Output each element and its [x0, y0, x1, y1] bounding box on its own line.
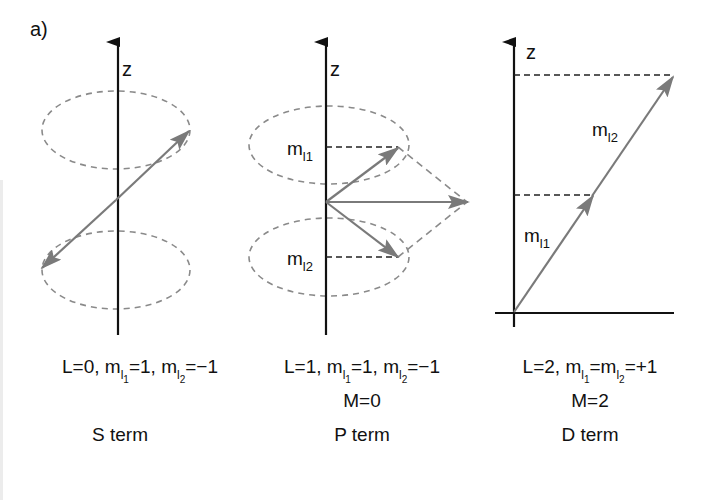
p-vector-ml2	[326, 202, 398, 257]
p-term-panel: z ml1 ml2	[249, 42, 468, 335]
p-total-m: M=0	[302, 390, 422, 412]
d-vector-ml1	[514, 196, 593, 312]
s-term-name: S term	[60, 424, 180, 446]
s-top-precession-ellipse	[42, 91, 190, 169]
s-vector-ml1	[116, 131, 189, 200]
d-label-ml2: ml2	[592, 119, 618, 145]
d-label-ml1: ml1	[524, 225, 550, 251]
s-vector-ml2	[42, 200, 116, 268]
p-axis-label: z	[330, 58, 340, 80]
p-term-caption: L=1, ml1=1, ml2=−1	[262, 356, 462, 380]
s-bottom-precession-ellipse	[42, 231, 190, 309]
p-label-ml1: ml1	[287, 138, 313, 164]
p-parallelogram-upper	[398, 147, 467, 202]
p-parallelogram-lower	[398, 202, 467, 257]
s-term-panel: z	[42, 42, 190, 335]
p-vector-ml1	[326, 148, 398, 202]
d-term-name: D term	[530, 424, 650, 446]
p-label-ml2: ml2	[287, 248, 313, 274]
d-term-caption: L=2, ml1=ml2=+1	[490, 356, 690, 380]
p-term-name: P term	[302, 424, 422, 446]
p-top-precession-ellipse	[249, 106, 409, 184]
s-axis-label: z	[122, 58, 132, 80]
d-term-panel: z ml1 ml2	[495, 41, 674, 327]
d-total-m: M=2	[530, 390, 650, 412]
s-term-caption: L=0, ml1=1, ml2=−1	[40, 356, 240, 380]
d-axis-label: z	[526, 41, 536, 63]
